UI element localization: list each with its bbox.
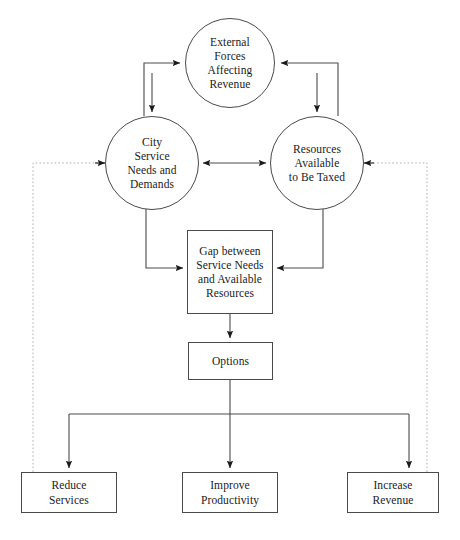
node-increase-revenue[interactable]: Increase Revenue [347, 472, 439, 513]
edge-options-bus [69, 380, 409, 414]
edge-city-to-external [144, 63, 180, 116]
edge-increase-revenue-feedback [368, 163, 427, 472]
node-resources-label: Resources Available to Be Taxed [285, 142, 349, 184]
node-external-forces-label: External Forces Affecting Revenue [204, 35, 257, 91]
node-improve-productivity-label: Improve Productivity [197, 478, 263, 506]
node-gap[interactable]: Gap between Service Needs and Available … [187, 230, 273, 314]
edge-resources-to-external [281, 63, 338, 116]
node-improve-productivity[interactable]: Improve Productivity [182, 472, 278, 513]
node-city-service-label: City Service Needs and Demands [123, 135, 180, 191]
node-increase-revenue-label: Increase Revenue [369, 478, 418, 506]
node-reduce-services[interactable]: Reduce Services [21, 472, 117, 513]
node-city-service[interactable]: City Service Needs and Demands [105, 116, 199, 210]
node-options-label: Options [208, 354, 253, 368]
node-resources[interactable]: Resources Available to Be Taxed [270, 116, 364, 210]
edge-reduce-services-feedback [33, 163, 101, 472]
node-reduce-services-label: Reduce Services [45, 478, 93, 506]
flow-diagram: External Forces Affecting Revenue City S… [0, 0, 460, 540]
edge-external-to-city [152, 63, 171, 112]
node-options[interactable]: Options [188, 342, 273, 380]
node-gap-label: Gap between Service Needs and Available … [192, 244, 267, 300]
node-external-forces[interactable]: External Forces Affecting Revenue [185, 18, 275, 108]
edge-city-to-gap [146, 208, 183, 268]
edge-resources-to-gap [277, 208, 323, 268]
